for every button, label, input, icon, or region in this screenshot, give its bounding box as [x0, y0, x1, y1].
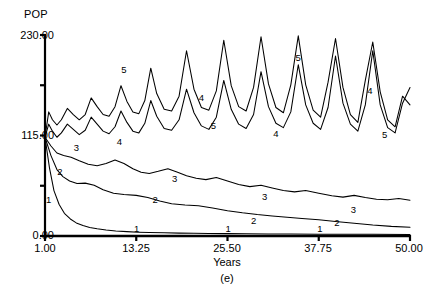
series-line-3	[45, 137, 410, 200]
curve-label-4: 4	[367, 85, 372, 96]
curve-label-2: 2	[153, 194, 158, 205]
curve-label-4: 4	[273, 128, 278, 139]
curve-label-1: 1	[46, 194, 51, 205]
curve-label-5: 5	[296, 52, 301, 63]
curve-label-4: 4	[199, 92, 204, 103]
curve-label-2: 2	[251, 215, 256, 226]
curve-label-5: 5	[211, 120, 216, 131]
curve-label-3: 3	[351, 204, 356, 215]
curve-label-3: 3	[74, 142, 79, 153]
curve-label-5: 5	[382, 129, 387, 140]
curve-label-3: 3	[172, 173, 177, 184]
curve-label-4: 4	[117, 136, 122, 147]
series-line-1	[45, 137, 410, 234]
curve-label-1: 1	[226, 223, 231, 234]
curve-label-group: 12323232311145454545	[46, 52, 387, 233]
curve-label-1: 1	[134, 223, 139, 234]
curve-label-5: 5	[121, 64, 126, 75]
curve-label-2: 2	[334, 217, 339, 228]
curve-label-3: 3	[262, 191, 267, 202]
series-line-5	[45, 36, 410, 137]
curve-label-2: 2	[57, 166, 62, 177]
curve-label-1: 1	[317, 223, 322, 234]
